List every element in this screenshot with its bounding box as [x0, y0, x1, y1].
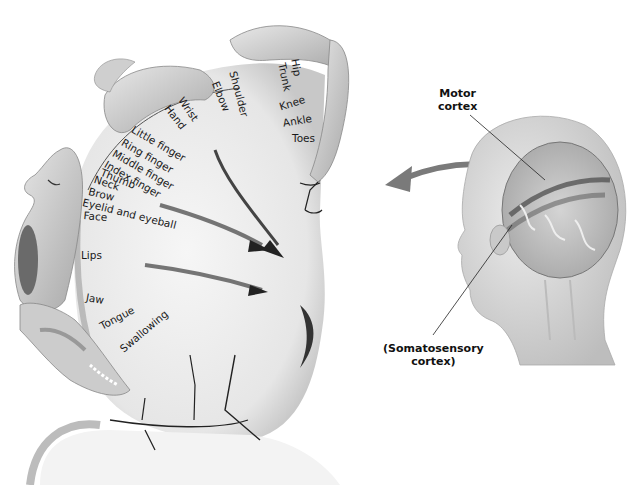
callout-somatosensory-line1: (Somatosensory	[383, 342, 484, 355]
label-hip: Hip	[290, 58, 303, 77]
callout-somatosensory-line2: cortex)	[383, 355, 484, 368]
label-face: Face	[83, 210, 108, 223]
illustration	[0, 0, 635, 485]
callout-motor-cortex: Motor cortex	[438, 87, 477, 113]
callout-motor-cortex-line1: Motor	[438, 87, 477, 100]
callout-motor-cortex-line2: cortex	[438, 100, 477, 113]
callout-somatosensory-cortex: (Somatosensory cortex)	[383, 342, 484, 368]
homunculus-figure: Hip Trunk Shoulder Elbow Wrist Hand Knee…	[0, 0, 635, 485]
label-toes: Toes	[292, 133, 315, 144]
label-jaw: Jaw	[85, 292, 105, 305]
head-illustration	[458, 116, 626, 365]
label-lips: Lips	[81, 250, 102, 261]
